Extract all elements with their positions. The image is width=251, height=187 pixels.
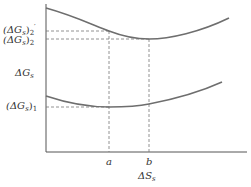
label-text: (ΔG <box>6 100 25 111</box>
x-tick-a: a <box>106 157 112 167</box>
label-prime: ′ <box>34 23 36 31</box>
lower-curve <box>46 82 222 107</box>
label-dG1: (ΔGs)1 <box>6 101 37 113</box>
y-axis-label: ΔGs <box>15 68 34 80</box>
label-index: 2 <box>30 39 34 47</box>
y-axis-label-sub: s <box>30 72 34 80</box>
upper-curve <box>46 8 229 39</box>
label-dG2: (ΔGs)2 <box>3 35 34 47</box>
x-axis-label: ΔSs <box>138 171 156 183</box>
label-index: 1 <box>33 105 37 113</box>
energy-diagram <box>0 0 251 187</box>
x-axis-label-sub: s <box>152 175 156 183</box>
x-tick-b: b <box>146 157 152 167</box>
x-axis-label-text: ΔS <box>138 170 152 181</box>
y-axis-label-text: ΔG <box>15 67 30 78</box>
label-text: (ΔG <box>3 34 22 45</box>
